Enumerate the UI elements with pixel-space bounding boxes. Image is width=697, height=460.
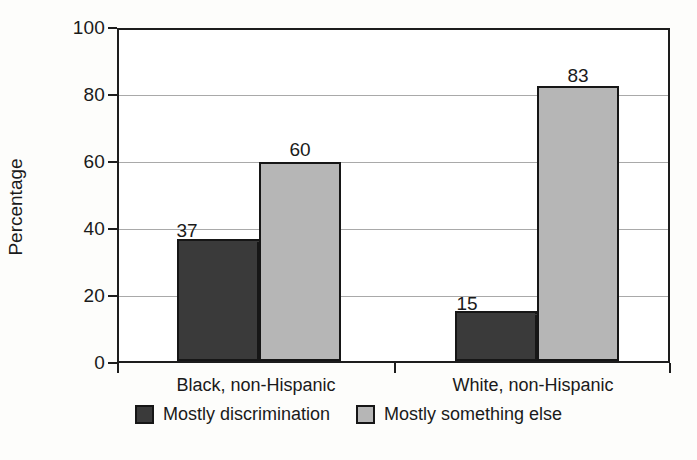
data-label-15: 15 — [456, 293, 477, 315]
legend-item-mostly-discrimination[interactable]: Mostly discrimination — [135, 404, 330, 425]
legend-swatch-icon-dark — [135, 405, 154, 424]
legend-swatch-icon-light — [356, 405, 375, 424]
y-tick-mark-20 — [108, 295, 117, 297]
legend: Mostly discrimination Mostly something e… — [0, 404, 697, 425]
y-tick-label-0: 0 — [94, 352, 105, 374]
y-tick-label-40: 40 — [83, 218, 105, 240]
category-label-white-non-hispanic: White, non-Hispanic — [452, 375, 613, 396]
bar-black-mostly-something-else[interactable] — [259, 162, 341, 361]
bar-black-mostly-discrimination[interactable] — [177, 239, 259, 362]
x-tick-mark-middle — [394, 363, 396, 373]
leader-line-37 — [207, 241, 259, 242]
x-tick-mark-left — [117, 363, 119, 373]
y-tick-mark-60 — [108, 161, 117, 163]
y-tick-mark-100 — [108, 27, 117, 29]
plot-area: 37 60 15 83 — [117, 28, 670, 363]
y-tick-label-100: 100 — [73, 17, 105, 39]
legend-label-mostly-discrimination: Mostly discrimination — [163, 404, 330, 425]
y-axis: 100 80 60 40 20 0 Percentage — [0, 0, 117, 460]
y-tick-label-20: 20 — [83, 285, 105, 307]
y-tick-label-80: 80 — [83, 84, 105, 106]
y-tick-label-60: 60 — [83, 151, 105, 173]
y-tick-mark-0 — [108, 362, 117, 364]
bar-white-mostly-discrimination[interactable] — [455, 311, 537, 361]
y-axis-title: Percentage — [5, 87, 27, 327]
bar-white-mostly-something-else[interactable] — [537, 86, 619, 361]
y-tick-mark-40 — [108, 228, 117, 230]
legend-label-mostly-something-else: Mostly something else — [384, 404, 562, 425]
data-label-60: 60 — [289, 139, 310, 161]
legend-item-mostly-something-else[interactable]: Mostly something else — [356, 404, 562, 425]
data-label-83: 83 — [567, 65, 588, 87]
category-label-black-non-hispanic: Black, non-Hispanic — [176, 375, 335, 396]
bar-chart-figure: 100 80 60 40 20 0 Percentage 37 60 15 83 — [0, 0, 697, 460]
x-tick-mark-right — [669, 363, 671, 373]
y-tick-mark-80 — [108, 94, 117, 96]
leader-line-15 — [485, 314, 537, 315]
data-label-37: 37 — [176, 220, 197, 242]
